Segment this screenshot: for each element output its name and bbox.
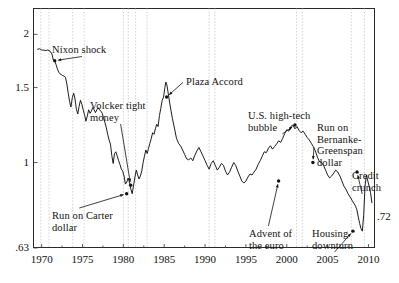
y-tick-label-3: .63	[0, 241, 29, 253]
x-tick-label-8: 2010	[343, 253, 393, 265]
annotation-leader-3	[79, 195, 123, 208]
annotation-leader-7	[268, 184, 277, 226]
annotation-label-1: Volcker tight money	[90, 100, 146, 123]
annotation-leader-1	[121, 124, 131, 182]
annotation-marker-1	[129, 183, 132, 186]
annotation-label-2: Plaza Accord	[186, 76, 243, 88]
end-value-label: .72	[377, 210, 391, 222]
chart-root: 21.51.63 1970197519801985199019952000200…	[0, 0, 399, 283]
y-tick-label-0: 2	[0, 27, 29, 39]
annotation-marker-0	[53, 59, 56, 62]
y-tick-label-1: 1.5	[0, 81, 29, 93]
annotation-label-7: Advent of the euro	[249, 228, 292, 251]
annotation-marker-3	[125, 192, 128, 195]
annotation-marker-7	[277, 179, 280, 182]
annotation-arrowhead-5	[312, 156, 315, 159]
annotation-label-0: Nixon shock	[52, 44, 106, 56]
annotation-label-6: Credit crunch	[352, 170, 381, 193]
y-tick-label-2: 1	[0, 156, 29, 168]
annotation-label-5: Run on Bernanke- Greenspan dollar	[317, 122, 363, 168]
annotation-leader-0	[58, 57, 82, 61]
annotation-arrowhead-0	[58, 58, 61, 61]
annotation-label-3: Run on Carter dollar	[52, 210, 113, 233]
annotation-marker-5	[311, 161, 314, 164]
annotation-label-4: U.S. high-tech bubble	[248, 110, 310, 133]
annotation-marker-2	[165, 95, 168, 98]
annotation-label-8: Housing downturn	[312, 228, 353, 251]
